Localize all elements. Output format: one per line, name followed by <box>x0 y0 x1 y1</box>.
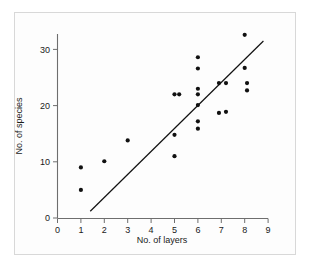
data-point <box>224 110 228 114</box>
x-tick-label: 2 <box>102 225 107 235</box>
y-axis-ticks: 0102030 <box>40 45 58 224</box>
data-point <box>196 66 200 70</box>
x-axis-title: No. of layers <box>137 235 188 245</box>
scatter-chart: 0123456789 0102030 No. of layers No. of … <box>0 0 311 267</box>
x-axis-ticks: 0123456789 <box>55 219 271 236</box>
x-tick-label: 6 <box>195 225 200 235</box>
data-point <box>177 92 181 96</box>
data-point <box>196 87 200 91</box>
data-point <box>243 66 247 70</box>
x-tick-label: 0 <box>55 225 60 235</box>
x-tick-label: 1 <box>78 225 83 235</box>
y-tick-label: 10 <box>40 157 50 167</box>
y-axis-title: No. of species <box>14 97 24 155</box>
x-tick-label: 8 <box>242 225 247 235</box>
data-point <box>245 88 249 92</box>
data-point <box>172 154 176 158</box>
y-tick-label: 0 <box>45 213 50 223</box>
y-tick-label: 30 <box>40 45 50 55</box>
data-point <box>126 138 130 142</box>
data-point <box>196 92 200 96</box>
data-points-group <box>79 33 249 192</box>
data-point <box>79 165 83 169</box>
data-point <box>224 81 228 85</box>
data-point <box>172 133 176 137</box>
x-tick-label: 9 <box>266 225 271 235</box>
axes-group <box>58 34 269 219</box>
regression-line <box>90 41 263 211</box>
x-tick-label: 5 <box>172 225 177 235</box>
data-point <box>102 159 106 163</box>
data-point <box>217 111 221 115</box>
data-point <box>243 33 247 37</box>
data-point <box>196 55 200 59</box>
data-point <box>79 188 83 192</box>
data-point <box>196 119 200 123</box>
x-tick-label: 4 <box>149 225 154 235</box>
data-point <box>196 127 200 131</box>
y-tick-label: 20 <box>40 101 50 111</box>
x-tick-label: 7 <box>219 225 224 235</box>
x-tick-label: 3 <box>125 225 130 235</box>
data-point <box>172 92 176 96</box>
figure-container: 0123456789 0102030 No. of layers No. of … <box>0 0 311 267</box>
data-point <box>245 81 249 85</box>
